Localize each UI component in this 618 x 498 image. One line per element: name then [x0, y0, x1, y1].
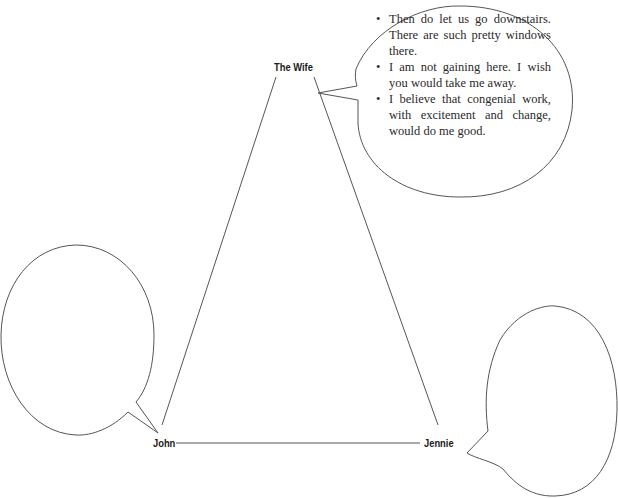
- wife-quote-text: Then do let us go downstairs. There are …: [389, 12, 551, 58]
- node-label-jennie: Jennie: [424, 437, 454, 449]
- wife-quote-text: I believe that congenial work, with exci…: [389, 92, 551, 138]
- edge-wife-john: [162, 77, 276, 425]
- wife-quote-item: •I believe that congenial work, with exc…: [375, 91, 551, 139]
- node-label-john: John: [153, 437, 175, 449]
- bullet-icon: •: [376, 59, 380, 75]
- wife-quote-text: I am not gaining here. I wish you would …: [389, 60, 551, 90]
- wife-quote-item: •Then do let us go downstairs. There are…: [375, 11, 551, 59]
- bullet-icon: •: [376, 91, 380, 107]
- bullet-icon: •: [376, 11, 380, 27]
- wife-quotes-list: •Then do let us go downstairs. There are…: [375, 11, 551, 139]
- speech-bubble-jennie: [467, 306, 617, 496]
- wife-quote-item: •I am not gaining here. I wish you would…: [375, 59, 551, 91]
- speech-bubble-john: [1, 245, 158, 435]
- node-label-the-wife: The Wife: [274, 61, 313, 73]
